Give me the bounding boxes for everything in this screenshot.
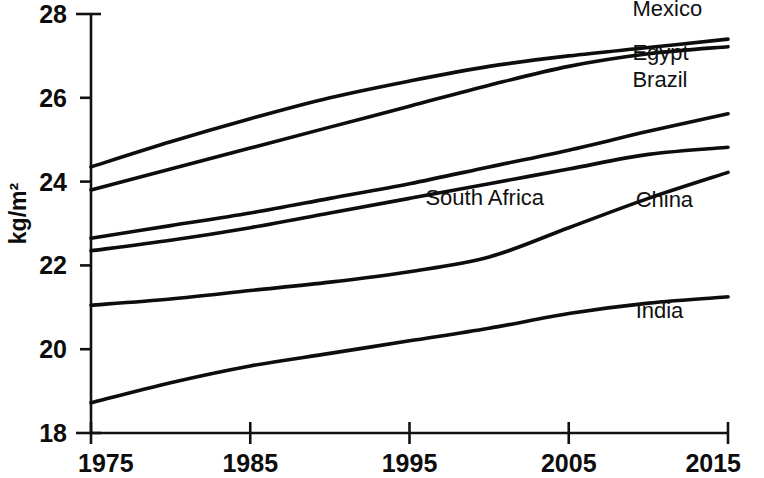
series-label-mexico: Mexico	[632, 0, 702, 21]
series-label-egypt: Egypt	[632, 40, 688, 65]
series-line-south-africa	[91, 147, 728, 250]
series-label-india: India	[636, 298, 684, 323]
y-tick-label-24: 24	[39, 168, 67, 196]
series-label-south-africa: South Africa	[425, 185, 544, 210]
x-tick-label-1975: 1975	[78, 449, 134, 477]
y-axis-title-text: kg/m²	[5, 182, 31, 244]
series-labels: MexicoEgyptBrazilSouth AfricaChinaIndia	[425, 0, 702, 323]
series-label-brazil: Brazil	[632, 67, 687, 92]
y-tick-label-22: 22	[39, 251, 67, 279]
y-axis-title: kg/m²	[5, 182, 31, 244]
x-axis-ticks: 19751985199520052015	[78, 422, 741, 477]
x-tick-label-2005: 2005	[541, 449, 597, 477]
y-tick-label-26: 26	[39, 84, 67, 112]
x-tick-label-2015: 2015	[685, 449, 741, 477]
x-tick-label-1995: 1995	[382, 449, 438, 477]
series-label-china: China	[636, 187, 694, 212]
series-line-brazil	[91, 114, 728, 238]
y-tick-label-20: 20	[39, 335, 67, 363]
line-chart: 182022242628 19751985199520052015 Mexico…	[0, 0, 764, 478]
y-tick-label-18: 18	[39, 419, 67, 447]
y-tick-label-28: 28	[39, 0, 67, 28]
x-tick-label-1985: 1985	[222, 449, 278, 477]
series-line-india	[91, 297, 728, 403]
series-lines	[91, 39, 728, 403]
chart-container: 182022242628 19751985199520052015 Mexico…	[0, 0, 764, 478]
